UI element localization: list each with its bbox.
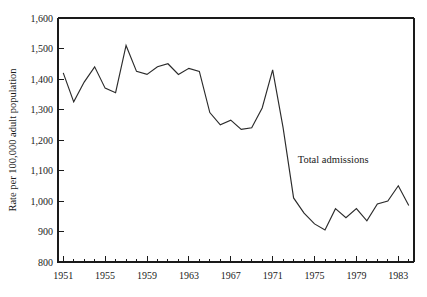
y-axis-ticks: 8009001,0001,1001,2001,3001,4001,5001,60… [31, 13, 65, 268]
line-chart: Rate per 100,000 adult population 800900… [0, 0, 427, 297]
y-axis-tick-label: 1,000 [31, 196, 54, 207]
y-axis-title: Rate per 100,000 adult population [7, 68, 18, 212]
y-axis-tick-label: 1,200 [31, 135, 54, 146]
y-axis-tick-label: 1,300 [31, 104, 54, 115]
x-axis-tick-label: 1963 [179, 270, 199, 281]
axis-frame [58, 18, 414, 262]
x-axis-tick-label: 1975 [305, 270, 325, 281]
x-axis-tick-label: 1951 [53, 270, 73, 281]
x-axis-tick-label: 1983 [388, 270, 408, 281]
x-axis-tick-label: 1959 [137, 270, 157, 281]
x-axis-tick-label: 1967 [221, 270, 241, 281]
series-annotation-label: Total admissions [298, 154, 369, 165]
y-axis-tick-label: 1,400 [31, 74, 54, 85]
chart-figure: Rate per 100,000 adult population 800900… [0, 0, 427, 297]
x-axis-tick-label: 1971 [263, 270, 283, 281]
y-axis-title-group: Rate per 100,000 adult population [7, 68, 18, 212]
x-axis-tick-label: 1979 [346, 270, 366, 281]
y-axis-tick-label: 1,500 [31, 43, 54, 54]
y-axis-tick-label: 900 [38, 226, 53, 237]
series-total-admissions-line [63, 45, 409, 230]
y-axis-tick-label: 1,600 [31, 13, 54, 24]
x-axis-ticks: 195119551959196319671971197519791983 [53, 256, 409, 281]
y-axis-tick-label: 800 [38, 257, 53, 268]
x-axis-tick-label: 1955 [95, 270, 115, 281]
y-axis-tick-label: 1,100 [31, 165, 54, 176]
